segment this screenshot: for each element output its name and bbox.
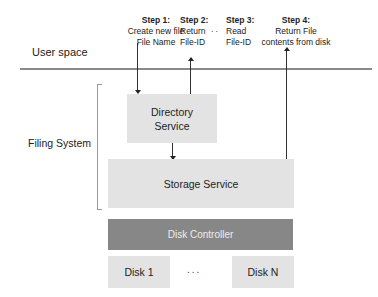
disk-n-label: Disk N [248,265,279,279]
step-2-line2: File-ID [180,37,220,48]
user-kernel-divider [20,68,372,70]
directory-to-storage-arrow [172,143,173,159]
step-4-line1: Return File [256,26,336,37]
filing-system-label: Filing System [28,137,91,149]
disk-1-box: Disk 1 [108,256,170,288]
directory-service-line1: Directory [151,105,193,119]
storage-service-box: Storage Service [108,159,294,208]
user-space-label: User space [32,46,88,58]
disk-controller-label: Disk Controller [168,228,234,242]
disk-1-label: Disk 1 [124,265,153,279]
disk-controller-box: Disk Controller [108,219,293,250]
step-4-line2: contents from disk [256,37,336,48]
directory-service-box: Directory Service [127,94,217,143]
step-2-arrow-up [190,58,191,94]
step-1-arrow-down [137,43,138,93]
directory-service-line2: Service [154,119,189,133]
disk-n-box: Disk N [232,256,294,288]
filing-system-bracket [97,84,102,210]
disk-ellipsis: ... [187,264,201,275]
storage-service-label: Storage Service [164,177,239,191]
steps-ellipsis: .. [211,24,220,34]
step-4-heading: Step 4: [256,15,336,26]
step-4-arrow-up [286,48,287,159]
step-4-label: Step 4: Return File contents from disk [256,15,336,48]
